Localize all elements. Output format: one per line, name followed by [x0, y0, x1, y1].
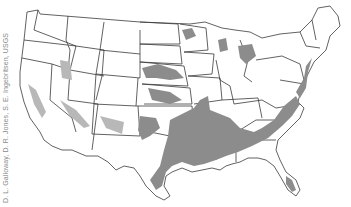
- us-subsidence-map: [0, 0, 351, 207]
